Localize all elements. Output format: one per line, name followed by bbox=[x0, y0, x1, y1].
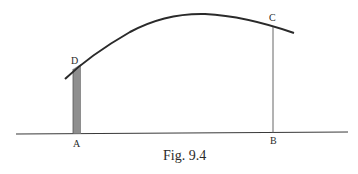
label-B: B bbox=[270, 135, 277, 146]
figure-caption: Fig. 9.4 bbox=[163, 148, 206, 163]
label-A: A bbox=[73, 138, 81, 149]
shaded-strip-AD bbox=[73, 64, 81, 134]
baseline-axis bbox=[16, 132, 348, 134]
diagram-canvas: D A C B Fig. 9.4 bbox=[0, 0, 358, 174]
label-D: D bbox=[71, 55, 78, 66]
label-C: C bbox=[269, 12, 276, 23]
curve-DC bbox=[65, 14, 294, 79]
